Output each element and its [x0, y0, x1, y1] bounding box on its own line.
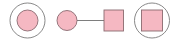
circle-icon [57, 11, 77, 31]
square-icon [104, 10, 124, 31]
ringed-square-node [135, 3, 170, 38]
square-node [104, 10, 124, 31]
square-icon [142, 10, 163, 31]
diagram-canvas [0, 0, 175, 41]
circle-icon [17, 10, 38, 31]
diagram-svg [0, 0, 175, 41]
circle-node [57, 11, 77, 31]
ringed-circle-node [10, 3, 45, 38]
